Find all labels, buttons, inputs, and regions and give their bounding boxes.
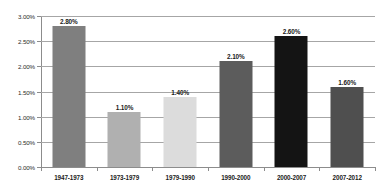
x-axis-tick	[208, 167, 209, 171]
x-axis-tick	[152, 167, 153, 171]
bar-group: 2.10%	[208, 16, 264, 167]
x-axis-category-label: 1947-1973	[54, 174, 83, 181]
x-axis-category-label: 1990-2000	[221, 174, 250, 181]
y-axis-tick-label: 0.50%	[0, 138, 35, 145]
x-axis-category-label: 2007-2012	[333, 174, 362, 181]
bars-layer: 2.80% 1.10% 1.40% 2.10% 2.60% 1.60%	[41, 16, 375, 167]
bar[interactable]	[108, 112, 141, 167]
bar[interactable]	[164, 97, 197, 168]
bar[interactable]	[52, 26, 85, 167]
x-axis-category-label: 1979-1990	[166, 174, 195, 181]
x-axis-category-label: 1973-1979	[110, 174, 139, 181]
y-axis-tick-label: 1.50%	[0, 88, 35, 95]
bar-value-label: 2.60%	[283, 28, 301, 35]
y-axis-tick-label: 3.00%	[0, 13, 35, 20]
bar-group: 1.10%	[97, 16, 153, 167]
x-axis-tick	[264, 167, 265, 171]
y-axis-tick-label: 0.00%	[0, 164, 35, 171]
bar-value-label: 1.60%	[338, 79, 356, 86]
x-axis-category-label: 2000-2007	[277, 174, 306, 181]
x-axis-tick	[41, 167, 42, 171]
bar-value-label: 1.10%	[116, 104, 134, 111]
bar[interactable]	[219, 61, 252, 167]
bar-value-label: 1.40%	[171, 89, 189, 96]
x-axis-tick	[375, 167, 376, 171]
x-axis-tick	[97, 167, 98, 171]
bar-chart: 0.00% 0.50% 1.00% 1.50% 2.00% 2.50% 3.00…	[0, 0, 383, 193]
x-axis-tick	[319, 167, 320, 171]
bar-value-label: 2.80%	[60, 18, 78, 25]
bar-group: 1.60%	[319, 16, 375, 167]
bar[interactable]	[275, 36, 308, 167]
y-axis-tick-label: 1.00%	[0, 113, 35, 120]
y-axis-tick-label: 2.00%	[0, 63, 35, 70]
y-axis-tick-label: 2.50%	[0, 38, 35, 45]
bar-value-label: 2.10%	[227, 53, 245, 60]
bar[interactable]	[331, 87, 364, 168]
bar-group: 2.60%	[264, 16, 320, 167]
bar-group: 1.40%	[152, 16, 208, 167]
bar-group: 2.80%	[41, 16, 97, 167]
